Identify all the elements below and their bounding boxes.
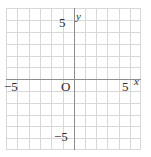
y-axis-tick-label-5: 5 <box>59 16 66 29</box>
x-axis-name-label: x <box>134 76 139 87</box>
x-axis-tick-label-5: 5 <box>122 80 129 93</box>
coordinate-plane-figure: 5 y −5 −5 5 x O <box>0 0 151 157</box>
x-axis-tick-label-minus5: −5 <box>4 80 18 93</box>
plot-area <box>6 8 141 150</box>
y-axis-name-label: y <box>76 11 81 22</box>
origin-label: O <box>61 80 70 93</box>
x-axis-line <box>6 79 141 80</box>
y-axis-tick-label-minus5: −5 <box>54 130 68 143</box>
